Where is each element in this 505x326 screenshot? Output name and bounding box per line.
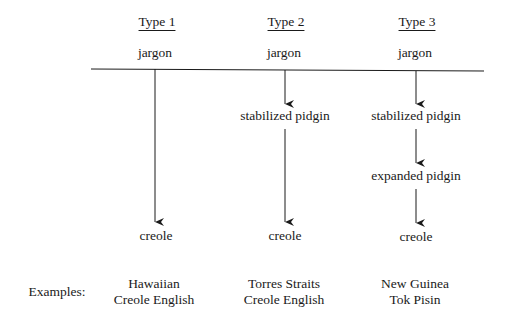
stage-type2-creole: creole [269, 228, 302, 244]
divider-line [91, 69, 484, 71]
stage-type2-jargon: jargon [267, 45, 301, 61]
stage-type3-creole: creole [400, 229, 433, 245]
example-type1-line2: Creole English [114, 292, 195, 308]
stage-type3-jargon: jargon [398, 45, 432, 61]
stage-type2-stabilized-pidgin: stabilized pidgin [240, 108, 330, 124]
header-type1: Type 1 [139, 14, 176, 30]
example-type2-line2: Creole English [244, 292, 325, 308]
example-type2-line1: Torres Straits [244, 276, 325, 292]
stage-type1-jargon: jargon [138, 45, 172, 61]
example-type3-line2: Tok Pisin [381, 292, 449, 308]
example-type3-line1: New Guinea [381, 276, 449, 292]
stage-type3-expanded-pidgin: expanded pidgin [371, 168, 461, 184]
example-type2: Torres Straits Creole English [244, 276, 325, 308]
examples-label: Examples: [29, 284, 86, 300]
stage-type1-creole: creole [140, 228, 173, 244]
stage-type3-stabilized-pidgin: stabilized pidgin [371, 108, 461, 124]
example-type3: New Guinea Tok Pisin [381, 276, 449, 308]
header-type2: Type 2 [268, 14, 305, 30]
example-type1: Hawaiian Creole English [114, 276, 195, 308]
example-type1-line1: Hawaiian [114, 276, 195, 292]
header-type3: Type 3 [399, 14, 436, 30]
